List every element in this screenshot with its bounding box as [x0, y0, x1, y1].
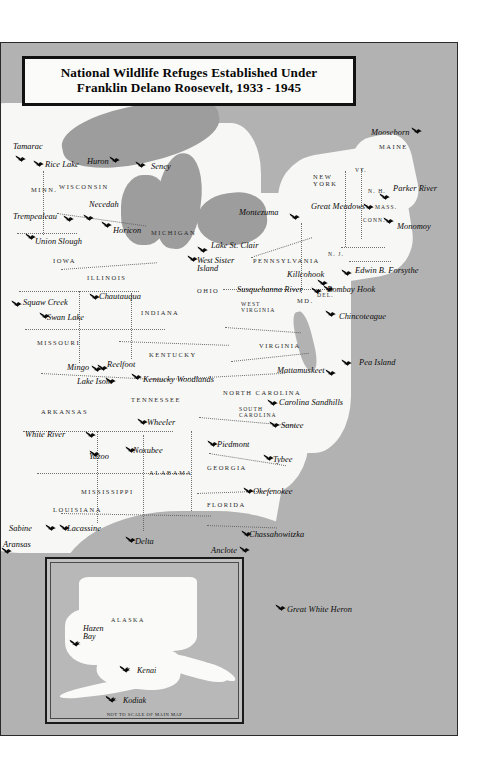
map-title-inner: National Wildlife Refuges Established Un…: [24, 58, 354, 104]
state-label: MISSOURI: [37, 339, 80, 346]
refuge-label: Union Slough: [35, 238, 82, 247]
state-label: LOUISIANA: [53, 506, 102, 513]
refuge-marker-icon: [105, 375, 118, 386]
refuge-marker-icon: [11, 298, 24, 309]
refuge-marker-icon: [45, 522, 58, 533]
refuge-marker-icon: [109, 154, 122, 165]
map-title-cartouche: National Wildlife Refuges Established Un…: [22, 56, 356, 106]
refuge-label: Carolina Sandhills: [279, 399, 343, 408]
state-label: PENNSYLVANIA: [253, 257, 320, 264]
refuge-marker-icon: [101, 219, 114, 230]
map-title-line1: National Wildlife Refuges Established Un…: [61, 66, 318, 81]
alaska-region-label: ALASKA: [111, 617, 145, 623]
state-label: TENNESSEE: [131, 396, 181, 403]
refuge-label: Great White Heron: [287, 606, 352, 615]
state-label: MASS.: [375, 204, 397, 210]
refuge-label: Chautauqua: [99, 293, 141, 302]
state-label: WESTVIRGINIA: [241, 301, 275, 313]
refuge-label: West SisterIsland: [197, 257, 234, 274]
refuge-marker-icon: [341, 357, 354, 368]
refuge-marker-icon: [89, 291, 102, 302]
state-label: MD.: [297, 297, 314, 304]
refuge-marker-icon: [341, 267, 354, 278]
refuge-label: Kentucky Woodlands: [143, 376, 214, 385]
refuge-label: Susquehanna River: [237, 286, 303, 295]
refuge-label: Santee: [281, 422, 304, 431]
refuge-label: Sabine: [9, 525, 32, 534]
state-label: WISCONSIN: [59, 183, 109, 190]
alaska-refuge-label: Kodiak: [123, 697, 146, 705]
state-label: OHIO: [197, 287, 219, 294]
refuge-marker-icon: [125, 444, 138, 455]
alaska-refuge-label: HazenBay: [83, 625, 103, 641]
refuge-marker-icon: [411, 125, 424, 136]
refuge-marker-icon: [1, 545, 14, 556]
state-label: ALABAMA: [149, 469, 192, 476]
refuge-marker-icon: [83, 212, 96, 223]
state-label: IOWA: [53, 257, 76, 264]
state-label: FLORIDA: [207, 501, 246, 508]
refuge-marker-icon: [207, 438, 220, 449]
alaska-refuge-marker-icon: [105, 693, 119, 705]
refuge-label: Piedmont: [217, 441, 250, 450]
refuge-label: Parker River: [393, 185, 437, 194]
state-label: MINN.: [31, 186, 57, 193]
refuge-marker-icon: [125, 534, 138, 545]
refuge-label: Reelfoot: [107, 361, 135, 370]
refuge-marker-icon: [97, 362, 110, 373]
alaska-refuge-marker-icon: [119, 663, 133, 675]
refuge-label: Chincoteague: [339, 313, 386, 322]
state-label: N. J.: [328, 251, 344, 257]
refuge-label: Mingo: [67, 364, 89, 373]
refuge-label: Rice Lake: [45, 161, 79, 170]
refuge-marker-icon: [137, 416, 150, 427]
refuge-marker-icon: [363, 201, 376, 212]
refuge-marker-icon: [289, 211, 302, 222]
refuge-marker-icon: [325, 367, 338, 378]
refuge-label: Wheeler: [147, 419, 175, 428]
refuge-label: Swan Lake: [47, 314, 84, 323]
state-label: KENTUCKY: [149, 351, 197, 358]
alaska-inset-mat: ALASKA HazenBayKenaiKodiak: [50, 562, 239, 719]
state-label: VIRGINIA: [259, 342, 301, 349]
refuge-label: Horicon: [113, 227, 141, 236]
state-label: INDIANA: [141, 309, 179, 316]
refuge-marker-icon: [135, 159, 148, 170]
refuge-label: Seney: [151, 163, 171, 172]
state-label: ARKANSAS: [41, 408, 88, 415]
state-label: NORTH CAROLINA: [223, 389, 301, 396]
refuge-marker-icon: [89, 448, 102, 459]
refuge-marker-icon: [25, 231, 38, 242]
state-label: VT.: [355, 167, 367, 173]
refuge-marker-icon: [241, 528, 254, 539]
refuge-label: Great Meadows: [311, 203, 365, 212]
alaska-inset: ALASKA HazenBayKenaiKodiak NOT TO SCALE …: [45, 557, 244, 724]
refuge-marker-icon: [323, 283, 336, 294]
alaska-inset-caption: NOT TO SCALE OF MAIN MAP: [47, 712, 242, 717]
refuge-label: Tamarac: [13, 143, 43, 152]
refuge-label: Necedah: [89, 201, 119, 210]
refuge-label: Squaw Creek: [23, 299, 68, 308]
refuge-label: Trempealeau: [13, 213, 57, 222]
refuge-label: Lacassine: [67, 525, 101, 534]
alaska-refuge-label: Kenai: [137, 667, 156, 675]
refuge-marker-icon: [379, 191, 392, 202]
refuge-marker-icon: [269, 419, 282, 430]
refuge-label: Lake St. Clair: [211, 242, 258, 251]
refuge-marker-icon: [85, 429, 98, 440]
refuge-marker-icon: [33, 158, 46, 169]
state-label: NEWYORK: [313, 173, 337, 187]
refuge-label: Chassahowitzka: [249, 531, 304, 540]
refuge-label: Edwin B. Forsythe: [355, 267, 418, 276]
refuge-marker-icon: [59, 522, 72, 533]
state-label: MICHIGAN: [151, 229, 196, 236]
refuge-marker-icon: [39, 310, 52, 321]
refuge-marker-icon: [131, 371, 144, 382]
alaska-refuge-marker-icon: [69, 637, 83, 649]
state-label: GEORGIA: [207, 464, 247, 471]
refuge-marker-icon: [325, 308, 338, 319]
refuge-marker-icon: [239, 544, 252, 555]
refuge-marker-icon: [15, 153, 28, 164]
refuge-label: Mooseborn: [371, 129, 410, 138]
refuge-label: Anclote: [211, 547, 237, 556]
